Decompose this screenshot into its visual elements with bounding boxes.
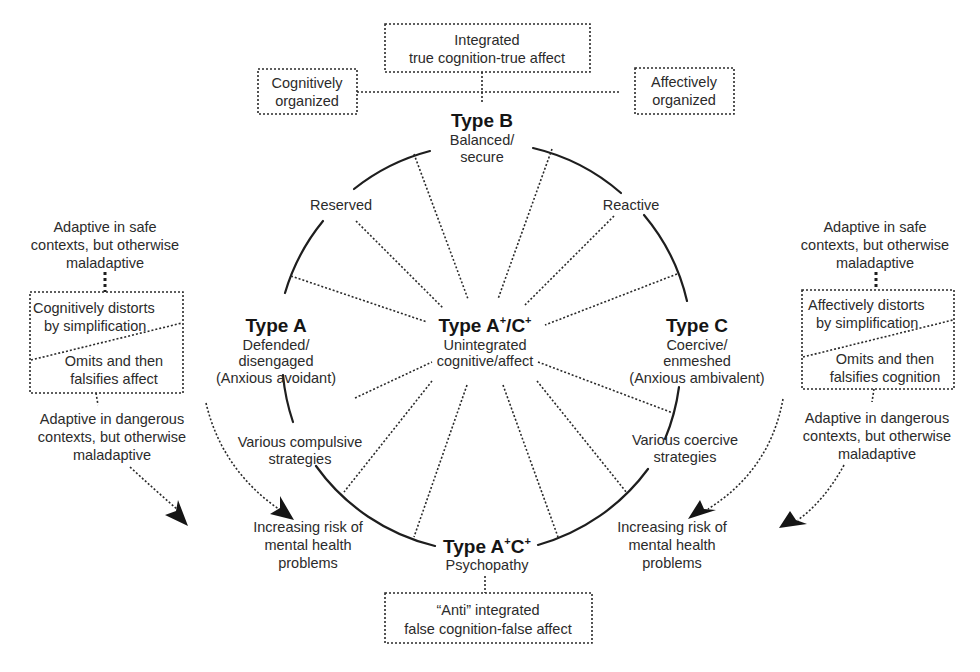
type-ac-center-desc2: cognitive/affect bbox=[437, 353, 533, 369]
compulsive-line1: Various compulsive bbox=[238, 434, 363, 450]
type-b-desc1: Balanced/ bbox=[450, 132, 515, 148]
risk-left-line3: problems bbox=[278, 555, 338, 571]
type-ac-center-title: Type A+/C+ bbox=[438, 314, 531, 336]
type-b-title: Type B bbox=[451, 110, 513, 131]
type-a-desc1: Defended/ bbox=[243, 337, 311, 353]
integrated-box: Integrated true cognition-true affect bbox=[385, 24, 590, 72]
type-a-desc3: (Anxious avoidant) bbox=[216, 370, 336, 386]
type-a-label: Type A Defended/ disengaged (Anxious avo… bbox=[216, 315, 336, 386]
type-ac-center-label: Type A+/C+ Unintegrated cognitive/affect bbox=[437, 314, 533, 369]
integrated-label: Integrated bbox=[454, 32, 519, 48]
right-box-bottom-line2: falsifies cognition bbox=[830, 369, 940, 385]
left-safe-line2: contexts, but otherwise bbox=[31, 237, 179, 253]
left-danger-line3: maladaptive bbox=[73, 447, 151, 463]
compulsive-line2: strategies bbox=[269, 451, 332, 467]
left-box-top-line1: Cognitively distorts bbox=[33, 300, 155, 316]
left-danger-line2: contexts, but otherwise bbox=[38, 429, 186, 445]
anti-integrated-box: “Anti” integrated false cognition-false … bbox=[385, 593, 592, 643]
type-a-title: Type A bbox=[245, 315, 307, 336]
arrowhead-icon bbox=[779, 511, 807, 528]
reactive-label: Reactive bbox=[603, 197, 659, 213]
type-ac-center-desc1: Unintegrated bbox=[443, 337, 526, 353]
right-safe-line1: Adaptive in safe bbox=[823, 219, 926, 235]
arrowhead-icon bbox=[270, 496, 294, 520]
risk-right-line2: mental health bbox=[628, 537, 715, 553]
right-box-top-line2: by simplification bbox=[816, 315, 918, 331]
right-danger-line2: contexts, but otherwise bbox=[803, 428, 951, 444]
anti-integrated-sublabel: false cognition-false affect bbox=[404, 621, 571, 637]
type-c-desc1: Coercive/ bbox=[666, 337, 728, 353]
type-a-desc2: disengaged bbox=[239, 353, 314, 369]
reserved-label: Reserved bbox=[310, 197, 372, 213]
anti-integrated-label: “Anti” integrated bbox=[436, 602, 539, 618]
psychopathy-label: Psychopathy bbox=[445, 557, 529, 573]
cognitively-organized-box: Cognitively organized bbox=[258, 69, 357, 114]
coercive-line2: strategies bbox=[654, 449, 717, 465]
attachment-model-diagram: Integrated true cognition-true affect Co… bbox=[0, 0, 980, 672]
type-ac-bottom-label: Type A+C+ Psychopathy bbox=[443, 535, 531, 573]
coercive-line1: Various coercive bbox=[632, 432, 738, 448]
top-connector bbox=[357, 72, 620, 104]
coercive-label: Various coercive strategies bbox=[632, 432, 738, 465]
organized-label: organized bbox=[652, 92, 716, 108]
integrated-sublabel: true cognition-true affect bbox=[409, 50, 565, 66]
risk-right-line3: problems bbox=[642, 555, 702, 571]
affectively-label: Affectively bbox=[651, 74, 718, 90]
organized-label: organized bbox=[275, 93, 339, 109]
left-box-top-line2: by simplification bbox=[44, 318, 146, 334]
right-panel: Adaptive in safe contexts, but otherwise… bbox=[801, 219, 954, 462]
right-box-top-line1: Affectively distorts bbox=[808, 297, 925, 313]
risk-left-label: Increasing risk of mental health problem… bbox=[253, 519, 364, 571]
compulsive-label: Various compulsive strategies bbox=[238, 434, 363, 467]
type-c-desc2: enmeshed bbox=[663, 353, 731, 369]
left-safe-line3: maladaptive bbox=[66, 255, 144, 271]
type-c-title: Type C bbox=[666, 315, 728, 336]
risk-left-line2: mental health bbox=[264, 537, 351, 553]
left-safe-line1: Adaptive in safe bbox=[53, 219, 156, 235]
affectively-organized-box: Affectively organized bbox=[635, 68, 734, 114]
right-box-bottom-line1: Omits and then bbox=[836, 351, 934, 367]
risk-right-label: Increasing risk of mental health problem… bbox=[617, 519, 728, 571]
type-ac-bottom-title: Type A+C+ bbox=[443, 535, 531, 557]
arrowhead-icon bbox=[688, 500, 716, 519]
left-danger-line1: Adaptive in dangerous bbox=[40, 411, 184, 427]
type-b-desc2: secure bbox=[460, 149, 504, 165]
right-danger-line1: Adaptive in dangerous bbox=[805, 410, 949, 426]
type-b-label: Type B Balanced/ secure bbox=[450, 110, 515, 165]
arrow-right-outer bbox=[779, 465, 844, 528]
left-box-bottom-line2: falsifies affect bbox=[70, 371, 158, 387]
risk-right-line1: Increasing risk of bbox=[617, 519, 728, 535]
right-safe-line3: maladaptive bbox=[836, 255, 914, 271]
arrowhead-icon bbox=[165, 500, 188, 526]
cognitively-label: Cognitively bbox=[272, 75, 344, 91]
type-c-desc3: (Anxious ambivalent) bbox=[629, 370, 764, 386]
right-danger-line3: maladaptive bbox=[838, 446, 916, 462]
arrow-left-outer bbox=[130, 467, 188, 526]
right-safe-line2: contexts, but otherwise bbox=[801, 237, 949, 253]
left-panel: Adaptive in safe contexts, but otherwise… bbox=[30, 219, 186, 463]
type-c-label: Type C Coercive/ enmeshed (Anxious ambiv… bbox=[629, 315, 764, 386]
left-box-bottom-line1: Omits and then bbox=[65, 353, 163, 369]
risk-left-line1: Increasing risk of bbox=[253, 519, 364, 535]
